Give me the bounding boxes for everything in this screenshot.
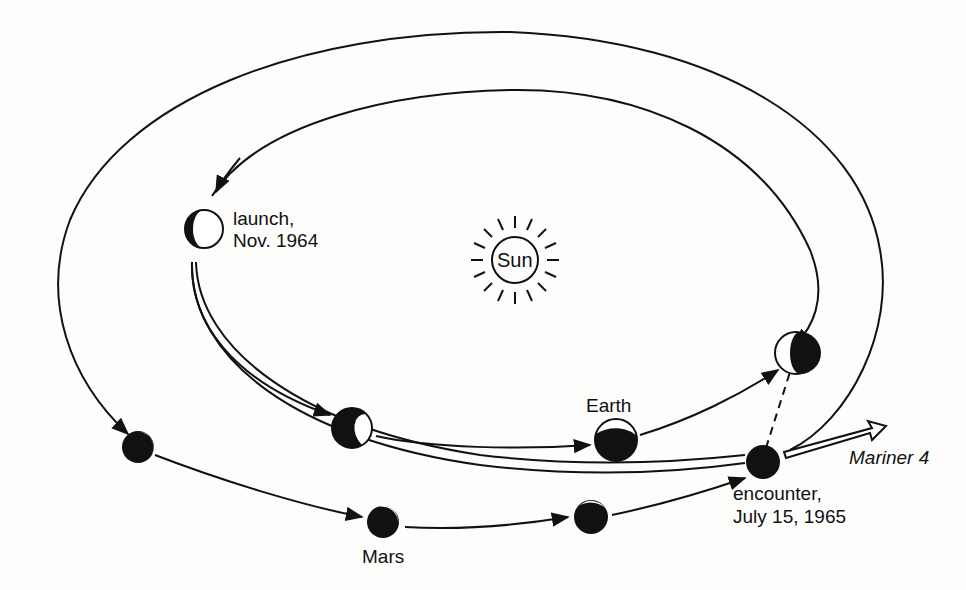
mars-orbit-seg3 xyxy=(612,478,745,515)
earth-label: Earth xyxy=(586,395,631,417)
earth-orbit-seg1 xyxy=(192,262,330,415)
encounter-label-line2: July 15, 1965 xyxy=(733,506,846,528)
earth-orbit-seg3 xyxy=(640,370,778,435)
mars-encounter-icon xyxy=(746,445,780,479)
mars-orbit-seg2 xyxy=(405,517,568,528)
mariner-trajectory-inner xyxy=(196,262,745,463)
mariner-trajectory-outer xyxy=(192,262,745,473)
encounter-dashed-line xyxy=(766,372,790,448)
mariner-4-label: Mariner 4 xyxy=(849,447,929,469)
mars-orbit-top xyxy=(58,32,883,450)
earth-launch-icon xyxy=(185,210,223,248)
earth-encounter-icon xyxy=(775,332,821,374)
launch-label-line1: launch, xyxy=(233,208,294,230)
mars-orbit-seg1 xyxy=(155,455,362,517)
sun-label: Sun xyxy=(497,249,533,271)
earth-orbit-seg2 xyxy=(376,436,590,448)
mars-launch-icon xyxy=(122,431,154,463)
launch-label-line2: Nov. 1964 xyxy=(233,230,318,252)
trajectory-diagram: Sun launch, Nov. 1964 Earth Mars encount… xyxy=(0,0,966,590)
mars-position-2-icon xyxy=(574,500,608,534)
earth-position-2-icon xyxy=(595,419,637,461)
earth-position-1-icon xyxy=(332,408,372,448)
encounter-label-line1: encounter, xyxy=(733,483,822,505)
mars-label: Mars xyxy=(362,546,404,568)
mars-position-1-icon xyxy=(367,506,399,538)
